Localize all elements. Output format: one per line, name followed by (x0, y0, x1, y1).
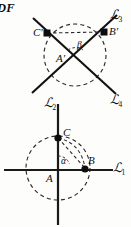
point-marker-c (54, 134, 61, 141)
line-L3 (32, 15, 117, 93)
script-l-glyph-L4: ℒ (110, 92, 119, 107)
point-marker-b-prime (101, 29, 108, 36)
script-l-glyph-L2: ℒ (44, 95, 53, 110)
bottom-diagram-group (4, 104, 113, 225)
corner-header-text: DF (0, 2, 15, 15)
subscript-L1: 1 (122, 168, 126, 177)
label-line-L1: ℒ1 (113, 161, 125, 176)
label-line-L3: ℒ3 (110, 8, 122, 23)
label-point-a-prime: A' (56, 53, 65, 64)
label-angle-beta: β (77, 41, 82, 51)
label-point-c: C (63, 127, 70, 138)
top-chord-cprime-bprime (47, 32, 104, 33)
subscript-L3: 3 (119, 15, 123, 24)
label-point-a: A (46, 173, 53, 184)
point-marker-b (81, 165, 88, 172)
script-l-glyph-L1: ℒ (113, 160, 122, 175)
top-diagram-group (32, 15, 117, 94)
label-line-L4: ℒ4 (110, 93, 122, 108)
label-point-b-prime: B' (109, 26, 118, 37)
geometry-figure: DF C' B' A' β ℒ3 ℒ4 ℒ2 C B A α ℒ1 (0, 0, 131, 227)
subscript-L2: 2 (53, 103, 57, 112)
label-angle-alpha: α (61, 157, 66, 167)
subscript-L4: 4 (119, 100, 123, 109)
label-point-c-prime: C' (33, 27, 43, 38)
point-marker-c-prime (44, 30, 51, 37)
script-l-glyph-L3: ℒ (110, 7, 119, 22)
label-point-b: B (88, 155, 95, 166)
label-line-L2: ℒ2 (44, 96, 56, 111)
